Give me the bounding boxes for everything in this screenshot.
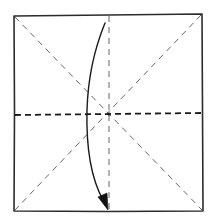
arrowhead-icon bbox=[98, 193, 108, 210]
origami-diagram bbox=[0, 0, 211, 223]
center-point bbox=[107, 112, 110, 115]
crease-diagonal-tr-bl bbox=[15, 15, 201, 210]
fold-arrow-curve bbox=[87, 23, 105, 200]
